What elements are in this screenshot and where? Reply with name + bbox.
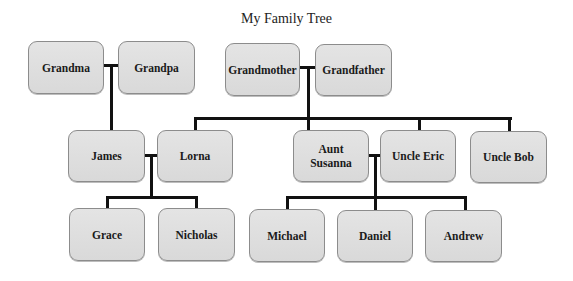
person-box-nicholas[interactable]: Nicholas (158, 208, 235, 261)
drop-aunt-susanna (307, 117, 310, 130)
person-name: Grandpa (134, 61, 179, 75)
person-name: Michael (267, 229, 307, 243)
person-name: Grace (92, 228, 122, 242)
person-name: Daniel (359, 229, 391, 243)
person-box-grandfather[interactable]: Grandfather (315, 44, 392, 96)
drop-uncle-bob (508, 117, 511, 131)
descent-line-susanna-eric (374, 154, 377, 198)
person-name: Uncle Eric (392, 149, 444, 163)
person-box-lorna[interactable]: Lorna (157, 130, 233, 182)
descent-line-james-lorna (150, 154, 153, 198)
drop-andrew (464, 196, 467, 210)
drop-uncle-eric (418, 117, 421, 130)
person-box-uncle-bob[interactable]: Uncle Bob (470, 131, 547, 183)
person-box-grandpa[interactable]: Grandpa (118, 41, 195, 94)
person-box-michael[interactable]: Michael (249, 209, 325, 262)
person-name: Grandma (42, 61, 90, 75)
person-name: Aunt Susanna (310, 142, 352, 170)
person-name: Andrew (444, 229, 483, 243)
descent-line-grandma-grandpa (110, 64, 113, 130)
person-box-grandmother[interactable]: Grandmother (225, 43, 300, 96)
drop-nicholas (195, 196, 198, 208)
person-name: Nicholas (175, 228, 217, 242)
drop-michael (286, 196, 289, 209)
person-name: James (91, 149, 122, 163)
person-box-aunt-susanna[interactable]: Aunt Susanna (293, 130, 369, 182)
person-name: Grandfather (322, 63, 385, 77)
person-box-andrew[interactable]: Andrew (425, 210, 502, 262)
descent-line-grandmother-grandfather (307, 66, 310, 119)
sibling-bar-james-lorna (106, 196, 198, 199)
person-name: Uncle Bob (483, 150, 534, 164)
diagram-title: My Family Tree (0, 11, 573, 27)
person-box-daniel[interactable]: Daniel (337, 210, 413, 262)
drop-lorna (194, 117, 197, 130)
person-box-grace[interactable]: Grace (69, 208, 145, 261)
drop-grace (106, 196, 109, 208)
person-name: Lorna (180, 149, 211, 163)
person-box-james[interactable]: James (68, 130, 145, 182)
person-box-grandma[interactable]: Grandma (28, 41, 104, 94)
person-box-uncle-eric[interactable]: Uncle Eric (380, 130, 456, 182)
sibling-bar-grandmother-grandfather (194, 117, 512, 120)
drop-daniel (374, 196, 377, 210)
person-name: Grandmother (228, 63, 296, 77)
